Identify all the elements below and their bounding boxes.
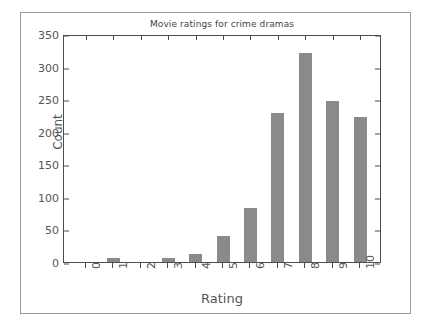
x-axis-tick-label: 5 [227,262,240,269]
x-axis-tick-mark [85,263,86,268]
x-axis-tick-mark-top [141,35,142,40]
x-axis-tick-label: 6 [254,262,267,269]
x-axis-tick-label: 9 [337,262,350,269]
x-axis-tick-mark-top [86,35,87,40]
y-axis-tick-label: 50 [45,224,59,237]
bar [326,101,339,262]
x-axis-tick-mark-top [278,35,279,40]
y-axis-tick-mark [375,231,380,232]
y-axis-tick-mark [375,166,380,167]
bar [217,236,230,262]
x-axis-tick-mark [304,263,305,268]
x-axis-tick-mark-top [250,35,251,40]
chart-title: Movie ratings for crime dramas [63,19,381,29]
y-axis-tick-mark [375,133,380,134]
x-axis-tick-mark-top [168,35,169,40]
x-axis-tick-label: 4 [200,262,213,269]
bar [271,113,284,262]
y-axis-tick-label: 300 [38,61,59,74]
y-axis-tick-mark [375,198,380,199]
y-axis-tick-mark [64,166,69,167]
x-axis-label: Rating [63,291,381,306]
x-axis-tick-mark-top [196,35,197,40]
bar [189,254,202,262]
x-axis-tick-mark [222,263,223,268]
y-axis-tick-label: 100 [38,191,59,204]
x-axis-tick-label: 1 [117,262,130,269]
y-axis-tick-mark [375,36,380,37]
x-axis-tick-mark [277,263,278,268]
y-axis-tick-mark [375,68,380,69]
plot-area [63,35,381,263]
y-axis-tick-mark [64,101,69,102]
x-axis-tick-label: 10 [364,255,377,269]
x-axis-tick-label: 2 [145,262,158,269]
figure-frame: Movie ratings for crime dramas 050100150… [20,12,411,314]
y-axis-tick-mark [375,101,380,102]
y-axis-tick-mark [64,198,69,199]
y-axis-tick-mark [64,36,69,37]
x-axis-tick-mark [140,263,141,268]
x-axis-tick-mark [167,263,168,268]
x-axis-tick-mark [359,263,360,268]
x-axis-tick-mark-top [333,35,334,40]
x-axis-tick-mark-top [113,35,114,40]
x-axis-tick-mark-top [223,35,224,40]
bar-chart: Movie ratings for crime dramas 050100150… [21,13,412,315]
bar [244,208,257,262]
x-axis-tick-label: 0 [90,262,103,269]
x-axis-tick-mark [112,263,113,268]
x-axis-tick-mark-top [305,35,306,40]
y-axis-tick-label: 350 [38,29,59,42]
x-axis-tick-label: 3 [172,262,185,269]
bar [299,53,312,262]
y-axis-tick-mark [64,231,69,232]
x-axis-tick-mark [332,263,333,268]
y-axis-tick-mark [64,68,69,69]
bar [354,117,367,262]
bars-layer [64,36,380,262]
x-axis-tick-mark [195,263,196,268]
y-axis-tick-label: 0 [52,257,59,270]
x-axis-tick-label: 8 [309,262,322,269]
x-axis-tick-mark-top [360,35,361,40]
x-axis-tick-mark [249,263,250,268]
y-axis-tick-mark [64,133,69,134]
x-axis-tick-label: 7 [282,262,295,269]
y-axis-tick-mark [64,264,69,265]
